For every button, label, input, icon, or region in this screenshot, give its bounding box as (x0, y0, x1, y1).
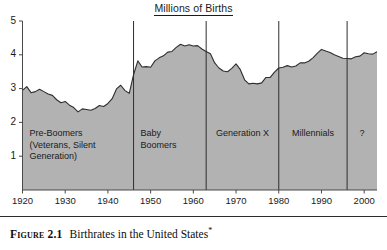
chart-title-text: Millions of Births (154, 2, 232, 16)
x-axis-tick-label: 1930 (48, 195, 82, 206)
y-axis-tick-label: 5 (2, 15, 16, 26)
footnote-marker: * (208, 226, 212, 235)
figure-number: Figure 2.1 (10, 228, 63, 240)
x-axis-tick-label: 2000 (347, 195, 381, 206)
birthrate-area-fill (23, 44, 378, 190)
generation-label-baby-boomers: Baby Boomers (141, 128, 204, 151)
generation-label-unknown-generation: ? (347, 128, 377, 140)
x-axis-tick-label: 1940 (91, 195, 125, 206)
x-axis-tick-label: 1990 (304, 195, 338, 206)
y-axis-tick-label: 4 (2, 48, 16, 59)
y-axis-tick-label: 2 (2, 116, 16, 127)
figure-caption: Figure 2.1Birthrates in the United State… (10, 226, 380, 240)
x-axis-tick-label: 1980 (262, 195, 296, 206)
x-axis-tick-label: 1920 (6, 195, 40, 206)
x-axis-tick-label: 1970 (219, 195, 253, 206)
y-axis-tick-label: 1 (2, 150, 16, 161)
figure-2-1: Millions of Births 12345 192019301940195… (0, 0, 387, 250)
x-axis-tick-label: 1960 (176, 195, 210, 206)
x-axis-tick-label: 1950 (134, 195, 168, 206)
chart-title: Millions of Births (0, 2, 387, 14)
generation-label-generation-x: Generation X (206, 128, 279, 140)
chart-plot-area (0, 0, 387, 212)
generation-label-pre-boomers: Pre-Boomers (Veterans, Silent Generation… (30, 128, 131, 163)
y-axis-tick-label: 3 (2, 82, 16, 93)
birthrates-chart: Millions of Births 12345 192019301940195… (0, 0, 387, 212)
figure-caption-text: Birthrates in the United States (70, 228, 209, 240)
generation-label-millennials: Millennials (279, 128, 347, 140)
caption-divider-rule (0, 216, 387, 217)
